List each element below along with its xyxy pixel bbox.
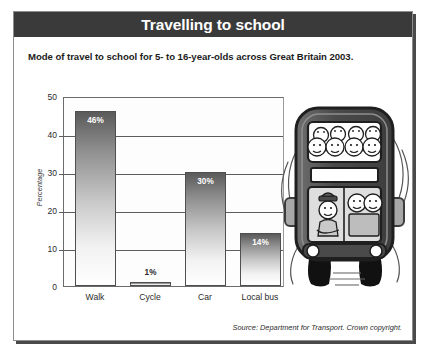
chart-panel: Travelling to school Mode of travel to s…: [13, 11, 413, 341]
bar-cycle: 1%: [130, 282, 171, 286]
passenger-seat: [349, 214, 379, 236]
y-tick-label-50: 50: [35, 92, 57, 102]
bar-local-bus: 14%: [240, 233, 281, 286]
y-tick-label-0: 0: [35, 282, 57, 292]
bar-value-local-bus: 14%: [241, 238, 280, 247]
headlight-right: [370, 245, 382, 257]
bar-car: 30%: [185, 172, 226, 286]
panel-title-bar: Travelling to school: [14, 12, 412, 37]
y-tick-label-30: 30: [35, 168, 57, 178]
chart-subtitle: Mode of travel to school for 5- to 16-ye…: [28, 51, 403, 62]
bar-value-walk: 46%: [76, 116, 115, 125]
bar-walk: 46%: [75, 111, 116, 286]
y-axis-labels: Percentage 50 40 30 20 10 0: [33, 97, 57, 287]
headlight-left: [307, 245, 319, 257]
x-tick-label-local-bus: Local bus: [242, 292, 279, 302]
bus-driver: [317, 193, 339, 236]
source-attribution: Source: Department for Transport. Crown …: [232, 323, 402, 332]
bar-chart: Percentage 50 40 30 20 10 0 46% 1% 30% 1…: [14, 82, 414, 317]
x-tick-label-car: Car: [198, 292, 212, 302]
destination-blind: [311, 168, 378, 182]
bar-value-car: 30%: [186, 177, 225, 186]
x-tick-label-cycle: Cycle: [139, 292, 161, 302]
page-title: Travelling to school: [141, 16, 285, 34]
lower-window-passengers: [348, 194, 382, 236]
y-tick-label-10: 10: [35, 244, 57, 254]
x-tick-label-walk: Walk: [86, 292, 105, 302]
y-tick-label-20: 20: [35, 206, 57, 216]
school-bus-illustration: [277, 90, 412, 302]
plot-area: 46% 1% 30% 14%: [63, 97, 284, 287]
x-axis-labels: Walk Cycle Car Local bus: [63, 292, 284, 308]
y-tick-label-40: 40: [35, 130, 57, 140]
bar-value-cycle: 1%: [131, 268, 170, 277]
